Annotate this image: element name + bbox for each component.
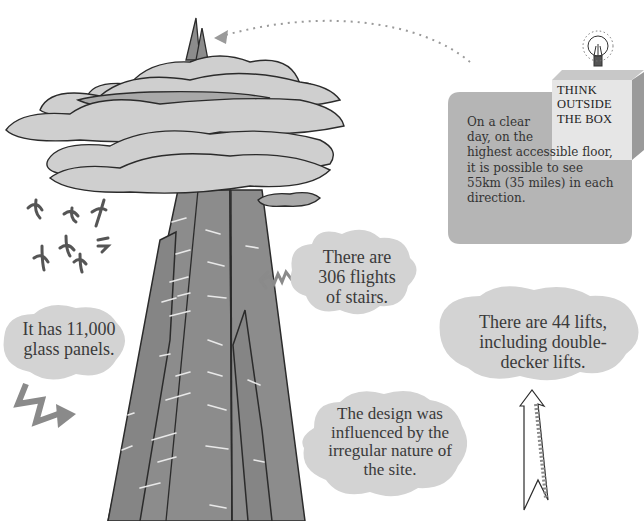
fact-design-line: irregular nature of [320, 442, 460, 461]
lightbulb-icon [583, 31, 613, 66]
tip-line: 55km (35 miles) in each [467, 176, 637, 191]
fact-lifts-line: There are 44 lifts, [458, 312, 628, 332]
fact-stairs: There are 306 flights of stairs. [302, 247, 412, 307]
tip-line: day, on the [467, 130, 637, 145]
dotted-arrow-icon [214, 21, 470, 62]
fact-design-line: the site. [320, 461, 460, 480]
fact-design: The design was influenced by the irregul… [320, 405, 460, 480]
fact-design-line: The design was [320, 405, 460, 424]
infographic: There are 306 flights of stairs. It has … [0, 0, 644, 521]
fact-stairs-line: of stairs. [302, 287, 412, 307]
fact-stairs-line: There are [302, 247, 412, 267]
birds-icon [28, 200, 108, 272]
tip-line: On a clear [467, 115, 637, 130]
tip-line: highest accessible floor, [467, 145, 637, 160]
fact-lifts-line: decker lifts. [458, 352, 628, 372]
cloud-layer-icon [6, 56, 344, 206]
fact-panels-line: glass panels. [14, 339, 124, 359]
box-label-line: THINK [557, 83, 612, 97]
fact-glass-panels: It has 11,000 glass panels. [14, 319, 124, 359]
fact-lifts: There are 44 lifts, including double- de… [458, 312, 628, 372]
tip-line: direction. [467, 191, 637, 206]
up-arrow-icon [520, 390, 548, 510]
fact-panels-line: It has 11,000 [14, 319, 124, 339]
box-label-line: OUTSIDE [557, 97, 612, 111]
squiggle-arrow-icon [260, 272, 292, 288]
tip-text: On a clear day, on the highest accessibl… [467, 115, 637, 206]
fact-stairs-line: 306 flights [302, 267, 412, 287]
zigzag-arrow-icon [18, 384, 76, 428]
fact-lifts-line: including double- [458, 332, 628, 352]
tip-line: it is possible to see [467, 161, 637, 176]
fact-design-line: influenced by the [320, 424, 460, 443]
